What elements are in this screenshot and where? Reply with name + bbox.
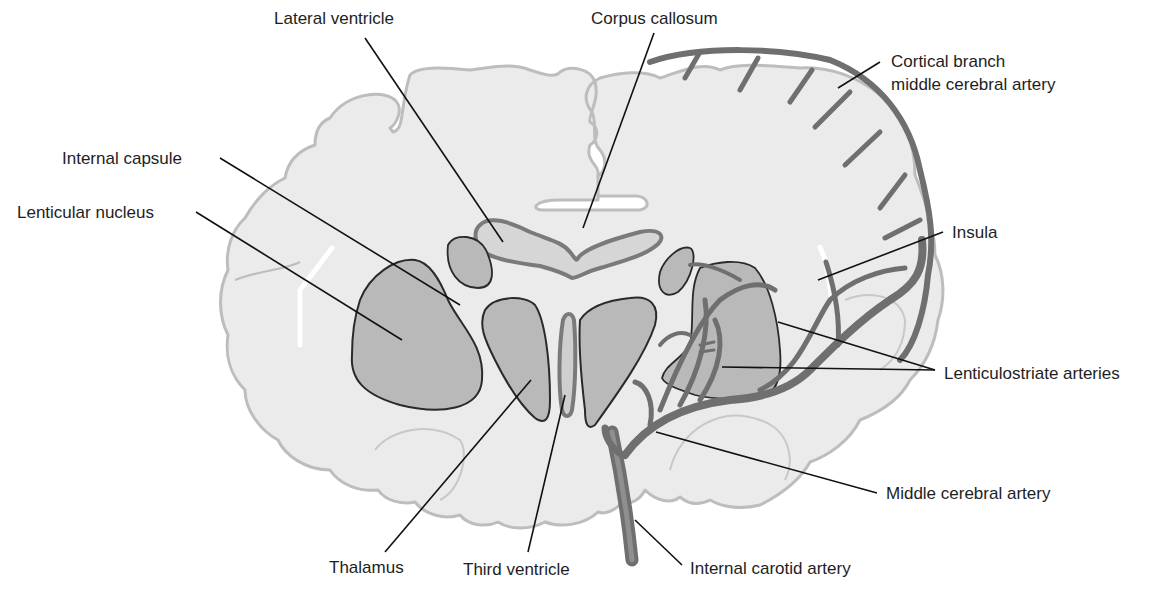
label-cortical-branch-line2: middle cerebral artery xyxy=(891,75,1055,95)
third-ventricle xyxy=(559,314,575,416)
label-lenticular-nucleus: Lenticular nucleus xyxy=(17,203,154,223)
label-lateral-ventricle: Lateral ventricle xyxy=(274,9,394,29)
label-lenticulostriate-arteries: Lenticulostriate arteries xyxy=(944,364,1120,384)
label-internal-carotid-artery: Internal carotid artery xyxy=(690,559,851,579)
label-thalamus: Thalamus xyxy=(329,558,404,578)
label-middle-cerebral-artery: Middle cerebral artery xyxy=(886,484,1050,504)
label-internal-capsule: Internal capsule xyxy=(62,149,182,169)
leader-internal-carotid xyxy=(635,520,682,565)
label-insula: Insula xyxy=(952,223,997,243)
label-third-ventricle: Third ventricle xyxy=(463,560,570,580)
label-corpus-callosum: Corpus callosum xyxy=(591,9,718,29)
label-cortical-branch-line1: Cortical branch xyxy=(891,52,1005,72)
